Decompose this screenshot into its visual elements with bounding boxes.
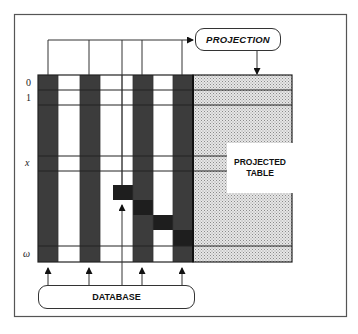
row-label-1: 1 bbox=[26, 92, 31, 103]
projected-table-label: PROJECTED TABLE bbox=[227, 143, 293, 193]
selected-cell bbox=[153, 215, 173, 230]
database-label: DATABASE bbox=[92, 292, 141, 302]
diagram-canvas bbox=[0, 0, 358, 334]
dark-column bbox=[80, 75, 100, 262]
selected-cell bbox=[133, 200, 153, 215]
projected-table-label-line1: PROJECTED bbox=[234, 157, 286, 168]
row-label-x: x bbox=[25, 157, 29, 168]
selected-cell bbox=[113, 185, 133, 200]
projection-label: PROJECTION bbox=[206, 34, 270, 45]
projection-label-box: PROJECTION bbox=[195, 28, 281, 51]
projection-diagram: PROJECTION DATABASE PROJECTED TABLE 0 1 … bbox=[0, 0, 358, 334]
database-matrix bbox=[38, 75, 193, 262]
selected-cell bbox=[173, 230, 193, 246]
database-label-box: DATABASE bbox=[38, 285, 195, 309]
row-label-0: 0 bbox=[26, 77, 31, 88]
projected-table-label-line2: TABLE bbox=[246, 168, 274, 179]
row-label-omega: ω bbox=[23, 248, 30, 259]
dark-column bbox=[38, 75, 58, 262]
dark-column bbox=[133, 75, 153, 262]
